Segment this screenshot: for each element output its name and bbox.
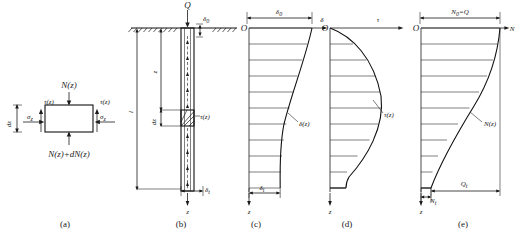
panel-e-h-axis-arrowhead: [504, 26, 509, 30]
panel-d-v-axis-arrowhead: [328, 201, 332, 206]
panel-e-top-dim-label: N0=Q: [450, 8, 468, 17]
shaft-shear-arrows: [186, 36, 189, 190]
right-shear-arrowhead: [95, 109, 99, 114]
panel-c-top-dim-label: δ0: [276, 8, 282, 17]
head-settlement-arrow-top: [198, 25, 201, 29]
panel-c-origin-label: O: [241, 23, 248, 33]
panel-b-length-label: l: [127, 111, 135, 113]
dz-dim-arrow-top: [15, 104, 19, 108]
panel-a-dz-label: dz: [5, 121, 13, 128]
panel-b-load-label: Q: [184, 0, 191, 10]
left-shear-arrowhead: [39, 109, 43, 114]
panel-a-sigma-right-label: σz: [100, 113, 106, 122]
panel-a: N(z) N(z)+dN(z) τ(z) τ(z) σz σz dz (a): [5, 80, 115, 229]
panel-e-curve-leader: [470, 112, 482, 122]
panel-b-element-shear-label: τ(z): [200, 113, 211, 121]
pile-length-arrow-bottom: [135, 186, 138, 190]
panel-c-curve-leader: [288, 113, 298, 122]
panel-d-hatch-lines: [330, 44, 382, 188]
panel-c-bottom-dim-label: δt: [260, 184, 265, 193]
panel-b: Q δ0 τ(z): [127, 0, 237, 229]
dz-dim-arrow-bottom: [15, 129, 19, 133]
panel-b-element-dz-label: dz: [150, 119, 158, 126]
ground-hatching: [129, 28, 237, 32]
panel-e-curve-label: N(z): [483, 120, 497, 128]
panel-c-curve-label: δ(z): [299, 120, 310, 128]
panel-e: N0=Q N O z N(z): [413, 8, 515, 229]
element-dz-arrow-bottom: [160, 123, 163, 127]
panel-e-origin-label: O: [413, 23, 420, 33]
panel-d-curve-label: τ(z): [384, 111, 395, 119]
panel-e-v-axis-label: z: [419, 208, 423, 216]
left-sigma-arrowhead: [39, 120, 44, 124]
element-hatching: [181, 110, 194, 126]
panel-e-qt-label: Qt: [461, 180, 468, 189]
panel-d-h-axis-label: τ: [377, 16, 380, 24]
caption-e: (e): [458, 219, 468, 229]
panel-a-top-force-label: N(z): [60, 80, 77, 90]
panel-a-shear-left-label: τ(z): [44, 98, 55, 106]
element-rect: [45, 105, 93, 132]
panel-c: δ0 δ O z δ(z): [241, 8, 328, 229]
panel-a-bottom-force-label: N(z)+dN(z): [47, 149, 90, 159]
caption-b: (b): [176, 219, 187, 229]
caption-d: (d): [342, 219, 353, 229]
panel-d-origin-label: O: [322, 23, 329, 33]
panel-e-h-axis-label: N: [509, 25, 515, 33]
panel-b-tip-settlement-label: δt: [205, 186, 210, 195]
panel-b-z-axis-arrowhead: [186, 201, 190, 206]
panel-e-hatch-lines: [421, 28, 500, 188]
panel-b-head-settlement-label: δ0: [203, 15, 209, 24]
panel-d: τ O z τ(z) (d): [322, 16, 404, 229]
panel-b-z-axis-label: z: [185, 208, 189, 216]
panel-b-depth-label: z: [151, 70, 159, 74]
panel-d-h-axis-arrowhead: [398, 26, 403, 30]
head-settlement-arrow-bottom: [198, 33, 201, 37]
figure-container: N(z) N(z)+dN(z) τ(z) τ(z) σz σz dz (a): [0, 0, 519, 242]
caption-c: (c): [251, 219, 261, 229]
caption-a: (a): [60, 219, 70, 229]
panel-d-v-axis-label: z: [328, 208, 332, 216]
pile-head-load-arrowhead: [185, 22, 189, 27]
panel-a-shear-right-label: τ(z): [100, 98, 111, 106]
panel-c-v-axis-label: z: [247, 208, 251, 216]
element-dz-arrow-top: [160, 109, 163, 113]
panel-a-sigma-left-label: σz: [27, 113, 33, 122]
panel-e-nt-label: Nt: [429, 197, 437, 206]
